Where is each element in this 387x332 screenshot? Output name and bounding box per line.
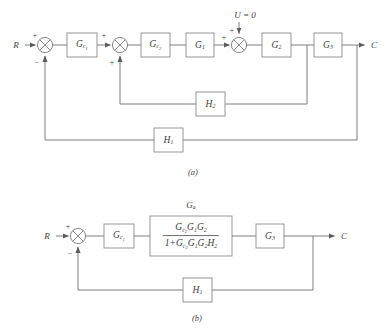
block-label-g3-a-text: G3 xyxy=(323,39,333,49)
sign-plus-sum3-in-a: + xyxy=(222,33,227,42)
block-label-h2-a: H2 xyxy=(206,99,216,110)
block-label-h2-a-text: H2 xyxy=(206,98,216,108)
transfer-function-fraction: Gc2G1G2 1+Gc2G1G2H2 xyxy=(163,222,219,250)
disturbance-label-u: U = 0 xyxy=(234,11,256,20)
output-label-c-b: C xyxy=(341,232,347,241)
block-label-h1-b-text: H1 xyxy=(193,284,203,294)
sign-minus-sum1-b: − xyxy=(68,249,73,258)
block-label-h1-b: H1 xyxy=(193,285,203,296)
caption-a: (a) xyxy=(188,168,198,177)
block-label-g2-a: G2 xyxy=(272,40,282,51)
sign-plus-sum2-in-a: + xyxy=(102,31,107,40)
block-label-gc1-a-text: Gc1 xyxy=(76,39,88,49)
block-label-g3-b: G3 xyxy=(265,231,275,242)
block-label-ga: Ga xyxy=(186,201,195,211)
block-label-gc1-a: Gc1 xyxy=(76,40,88,52)
block-label-g3-b-text: G3 xyxy=(265,230,275,240)
sign-plus-sum1-b: + xyxy=(66,222,71,231)
sign-minus-sum1-a: − xyxy=(35,58,40,67)
sign-plus-sum3-top-a: + xyxy=(230,26,235,35)
block-label-gc1-b-text: Gc1 xyxy=(113,230,125,240)
fraction-denominator: 1+Gc2G1G2H2 xyxy=(163,238,219,250)
block-label-g2-a-text: G2 xyxy=(272,39,282,49)
output-label-c-a: C xyxy=(371,41,377,50)
block-label-g1-a: G1 xyxy=(195,40,205,51)
sign-plus-sum1-a: + xyxy=(33,31,38,40)
figure-canvas: R + − Gc1 + + Gc2 G1 U = 0 + + G2 G3 C H… xyxy=(0,0,387,332)
input-label-r-a: R xyxy=(13,41,19,50)
block-label-g1-a-text: G1 xyxy=(195,39,205,49)
fraction-numerator: Gc2G1G2 xyxy=(163,222,219,235)
sign-plus-sum2-fb-a: + xyxy=(110,58,115,67)
block-label-g3-a: G3 xyxy=(323,40,333,51)
input-label-r-b: R xyxy=(44,232,50,241)
fraction-bar xyxy=(163,236,219,237)
block-label-gc2-a-text: Gc2 xyxy=(150,39,162,49)
caption-b: (b) xyxy=(192,314,202,323)
block-label-h1-a: H1 xyxy=(164,135,174,146)
block-label-ga-text: Ga xyxy=(186,200,195,210)
block-label-gc1-b: Gc1 xyxy=(113,231,125,243)
block-label-h1-a-text: H1 xyxy=(164,134,174,144)
block-label-gc2-a: Gc2 xyxy=(150,40,162,52)
